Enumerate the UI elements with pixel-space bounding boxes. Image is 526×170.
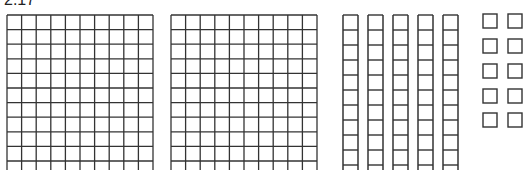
unit-cube: [483, 89, 497, 103]
base-ten-blocks-diagram: [0, 0, 526, 170]
tens-rod: [443, 15, 458, 170]
hundred-flat-1: [7, 15, 153, 170]
tens-rod: [393, 15, 408, 170]
tens-rod: [343, 15, 358, 170]
unit-cube: [508, 64, 522, 78]
unit-cube: [508, 39, 522, 53]
unit-cube: [508, 113, 522, 127]
hundred-flat-2: [171, 15, 317, 170]
unit-cube: [483, 64, 497, 78]
tens-rod: [418, 15, 433, 170]
unit-cube: [483, 14, 497, 28]
tens-rod: [368, 15, 383, 170]
unit-cube: [483, 39, 497, 53]
unit-cubes: [483, 14, 522, 127]
tens-rods: [343, 15, 458, 170]
unit-cube: [508, 14, 522, 28]
hundred-flats: [7, 15, 317, 170]
unit-cube: [508, 89, 522, 103]
unit-cube: [483, 113, 497, 127]
